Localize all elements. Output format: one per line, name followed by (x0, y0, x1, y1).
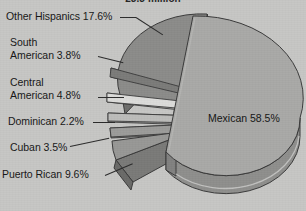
pie-label-other-hispanics: Other Hispanics 17.6% (6, 10, 112, 23)
chart-title: 23.3 million (0, 0, 306, 4)
leader-line-other-hispanics (120, 17, 136, 18)
pie-label-south-american: South American 3.8% (10, 36, 106, 61)
pie-label-central-american: Central American 4.8% (10, 76, 106, 101)
chart-page: 23.3 million (0, 0, 306, 211)
pie-label-dominican: Dominican 2.2% (8, 115, 84, 128)
pie-label-cuban: Cuban 3.5% (10, 141, 67, 154)
leader-line-dominican (93, 122, 115, 123)
pie-label-puerto-rican: Puerto Rican 9.6% (2, 168, 89, 181)
pie-label-south-american-line1: South (10, 36, 37, 48)
pie-label-central-american-line2: American 4.8% (10, 89, 81, 101)
pie-label-mexican: Mexican 58.5% (208, 112, 280, 124)
pie-label-south-american-line2: American 3.8% (10, 49, 81, 61)
pie-label-central-american-line1: Central (10, 76, 44, 88)
